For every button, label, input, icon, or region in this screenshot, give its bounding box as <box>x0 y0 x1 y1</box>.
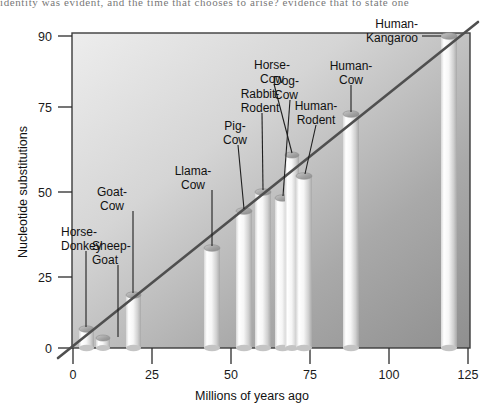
label-human-rodent-line1: Human- <box>295 99 338 113</box>
bar-human-rodent[interactable] <box>296 173 312 352</box>
bar-human-cow[interactable] <box>343 111 359 352</box>
label-horse-donkey-line1: Horse- <box>61 225 97 239</box>
x-tick-label-25: 25 <box>145 368 159 382</box>
x-axis: 0 25 50 75 100 125 Millions of years ago <box>70 348 479 403</box>
x-tick-label-125: 125 <box>458 368 479 382</box>
label-human-cow-line2: Cow <box>339 73 363 87</box>
chart-figure: 90 75 50 25 0 Nucleotide substitutions 0 <box>0 0 498 416</box>
label-rabbit-rodent-line2: Rodent <box>241 101 280 115</box>
label-pig-cow-line1: Pig- <box>224 119 245 133</box>
label-goat-cow-line2: Cow <box>100 199 124 213</box>
y-tick-label-0: 0 <box>45 342 52 356</box>
x-tick-label-50: 50 <box>224 368 238 382</box>
x-tick-label-0: 0 <box>70 368 77 382</box>
y-axis: 90 75 50 25 0 Nucleotide substitutions <box>16 30 72 356</box>
label-human-cow-line1: Human- <box>330 59 373 73</box>
x-axis-title: Millions of years ago <box>195 389 309 403</box>
label-horse-cow-line2: Cow <box>260 72 284 86</box>
y-tick-label-90: 90 <box>38 30 52 44</box>
bar-sheep-goat[interactable] <box>96 335 110 351</box>
x-tick-label-100: 100 <box>379 368 400 382</box>
bar-pig-cow[interactable] <box>236 208 252 352</box>
label-sheep-goat-line2: Goat <box>92 253 119 267</box>
y-tick-label-50: 50 <box>38 186 52 200</box>
label-human-rodent-line2: Rodent <box>297 113 336 127</box>
y-tick-label-75: 75 <box>38 101 52 115</box>
bar-llama-cow[interactable] <box>204 245 220 352</box>
label-human-kangaroo-line1: Human- <box>375 17 418 31</box>
label-horse-cow-line1: Horse- <box>254 58 290 72</box>
y-tick-label-25: 25 <box>38 271 52 285</box>
bar-human-kangaroo[interactable] <box>441 33 457 352</box>
label-pig-cow-line2: Cow <box>223 133 247 147</box>
nucleotide-substitutions-chart: 90 75 50 25 0 Nucleotide substitutions 0 <box>0 0 498 416</box>
label-sheep-goat-line1: Sheep- <box>92 239 131 253</box>
bar-rabbit-rodent[interactable] <box>255 189 271 352</box>
label-human-kangaroo-line2: Kangaroo <box>366 31 418 45</box>
page-root: identity was evident, and the time that … <box>0 0 498 416</box>
x-tick-label-75: 75 <box>303 368 317 382</box>
label-llama-cow-line1: Llama- <box>175 164 212 178</box>
label-goat-cow-line1: Goat- <box>97 185 127 199</box>
y-axis-title: Nucleotide substitutions <box>16 126 30 258</box>
label-llama-cow-line2: Cow <box>181 178 205 192</box>
